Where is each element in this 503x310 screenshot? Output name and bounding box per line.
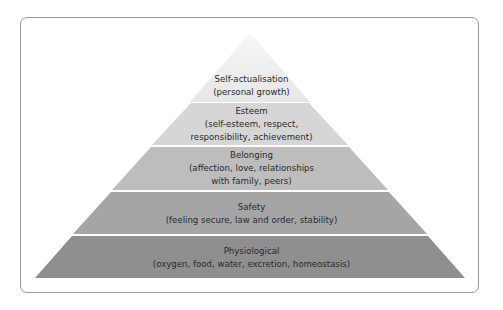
level-detail: (self-esteem, respect, [0, 118, 503, 131]
level-detail: with family, peers) [0, 175, 503, 188]
level-detail: (feeling secure, law and order, stabilit… [0, 214, 503, 227]
level-detail: (personal growth) [0, 86, 503, 99]
level-name: Self-actualisation [0, 73, 503, 86]
label-belonging: Belonging (affection, love, relationship… [0, 149, 503, 188]
level-name: Esteem [0, 105, 503, 118]
label-self-actualisation: Self-actualisation (personal growth) [0, 73, 503, 99]
label-esteem: Esteem (self-esteem, respect, responsibi… [0, 105, 503, 144]
level-detail: (affection, love, relationships [0, 162, 503, 175]
level-name: Physiological [0, 245, 503, 258]
level-name: Safety [0, 201, 503, 214]
label-physiological: Physiological (oxygen, food, water, excr… [0, 245, 503, 271]
level-detail: responsibility, achievement) [0, 131, 503, 144]
label-safety: Safety (feeling secure, law and order, s… [0, 201, 503, 227]
level-detail: (oxygen, food, water, excretion, homeost… [0, 258, 503, 271]
level-name: Belonging [0, 149, 503, 162]
